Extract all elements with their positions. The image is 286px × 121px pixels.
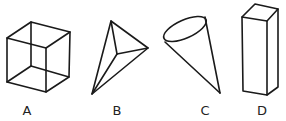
shapes-diagram — [0, 0, 286, 121]
cube-shape-a — [7, 22, 70, 92]
label-b: B — [113, 104, 122, 117]
label-c: C — [200, 104, 209, 117]
cone-shape-c — [160, 11, 220, 93]
label-a: A — [23, 104, 32, 117]
pyramid-shape-b — [92, 21, 148, 94]
label-d: D — [257, 104, 267, 117]
prism-shape-d — [242, 4, 278, 95]
